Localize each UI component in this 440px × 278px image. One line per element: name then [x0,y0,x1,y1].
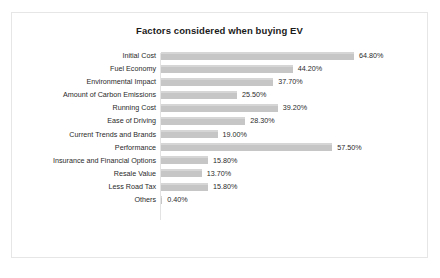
category-label: Less Road Tax [12,180,156,193]
bar-track: 57.50% [161,141,429,154]
category-label: Amount of Carbon Emissions [12,88,156,101]
category-label: Fuel Economy [12,62,156,75]
bar-track: 39.20% [161,101,429,114]
bar-row: Current Trends and Brands19.00% [12,128,429,141]
bar[interactable] [161,65,293,73]
bar[interactable] [161,169,202,177]
chart-container: Factors considered when buying EV Initia… [11,12,428,258]
category-label: Performance [12,141,156,154]
value-label: 15.80% [213,154,237,167]
category-label: Initial Cost [12,49,156,62]
category-label: Environmental Impact [12,75,156,88]
bar[interactable] [161,91,237,99]
category-label: Running Cost [12,101,156,114]
bar-track: 44.20% [161,62,429,75]
bar-row: Resale Value13.70% [12,167,429,180]
value-label: 0.40% [167,193,187,206]
bar[interactable] [161,143,332,151]
bar-track: 13.70% [161,167,429,180]
bar[interactable] [161,78,273,86]
value-label: 25.50% [242,88,266,101]
category-label: Insurance and Financial Options [12,154,156,167]
bar[interactable] [161,196,162,204]
category-label: Current Trends and Brands [12,128,156,141]
bar-track: 37.70% [161,75,429,88]
bar-track: 28.30% [161,114,429,127]
bar-row: Ease of Driving28.30% [12,114,429,127]
bar-row: Fuel Economy44.20% [12,62,429,75]
value-label: 57.50% [337,141,361,154]
bar[interactable] [161,117,245,125]
value-label: 64.80% [359,49,383,62]
bar-track: 15.80% [161,154,429,167]
bar-row: Running Cost39.20% [12,101,429,114]
value-label: 19.00% [223,128,247,141]
bar[interactable] [161,52,354,60]
value-label: 15.80% [213,180,237,193]
bar-track: 15.80% [161,180,429,193]
bar[interactable] [161,156,208,164]
bar-track: 64.80% [161,49,429,62]
bar-row: Others0.40% [12,193,429,206]
bar[interactable] [161,183,208,191]
value-label: 37.70% [278,75,302,88]
bar-track: 0.40% [161,193,429,206]
bar-row: Performance57.50% [12,141,429,154]
bar-track: 19.00% [161,128,429,141]
bar-row: Initial Cost64.80% [12,49,429,62]
bar-row: Insurance and Financial Options15.80% [12,154,429,167]
plot-area: Initial Cost64.80%Fuel Economy44.20%Envi… [12,49,429,249]
bar[interactable] [161,104,278,112]
category-label: Resale Value [12,167,156,180]
value-label: 39.20% [283,101,307,114]
bar-row: Less Road Tax15.80% [12,180,429,193]
bar-row: Environmental Impact37.70% [12,75,429,88]
bar[interactable] [161,130,218,138]
bar-row: Amount of Carbon Emissions25.50% [12,88,429,101]
value-label: 28.30% [250,114,274,127]
category-label: Others [12,193,156,206]
value-label: 13.70% [207,167,231,180]
value-label: 44.20% [298,62,322,75]
chart-title: Factors considered when buying EV [12,25,427,36]
category-label: Ease of Driving [12,114,156,127]
bar-track: 25.50% [161,88,429,101]
bar-rows: Initial Cost64.80%Fuel Economy44.20%Envi… [12,49,429,206]
